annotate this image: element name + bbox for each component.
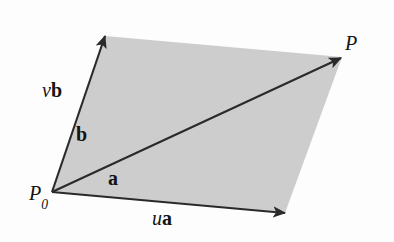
label-point-p0-letter: P (29, 182, 41, 204)
label-vector-vb-scalar: v (42, 79, 51, 101)
label-vector-b: b (76, 124, 87, 144)
label-vector-ua-name: a (162, 207, 172, 229)
vector-parallelogram-figure: P0 P vb b a ua (0, 0, 394, 242)
figure-canvas (0, 0, 394, 242)
label-point-p: P (345, 33, 357, 53)
label-vector-ua: ua (152, 208, 172, 228)
label-vector-vb: vb (42, 80, 62, 100)
label-point-p0: P0 (29, 183, 48, 208)
label-point-p0-subscript: 0 (41, 197, 48, 212)
label-vector-vb-name: b (51, 79, 62, 101)
label-vector-ua-scalar: u (152, 207, 162, 229)
label-vector-a: a (108, 168, 118, 188)
